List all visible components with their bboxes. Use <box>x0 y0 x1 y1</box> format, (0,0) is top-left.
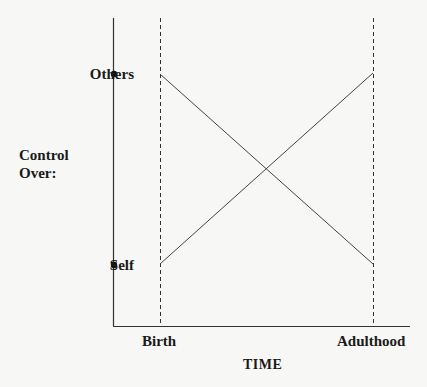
y-axis-title: Control Over: <box>19 146 99 182</box>
y-axis-title-line2: Over: <box>19 164 99 182</box>
x-tick-adulthood: Adulthood <box>337 332 405 350</box>
x-axis-title: TIME <box>243 356 282 374</box>
x-tick-birth: Birth <box>142 332 176 350</box>
y-tick-others: Others <box>90 65 134 83</box>
y-tick-self: Self <box>110 256 134 274</box>
y-axis-title-line1: Control <box>19 146 99 164</box>
diagram-canvas <box>0 0 427 387</box>
